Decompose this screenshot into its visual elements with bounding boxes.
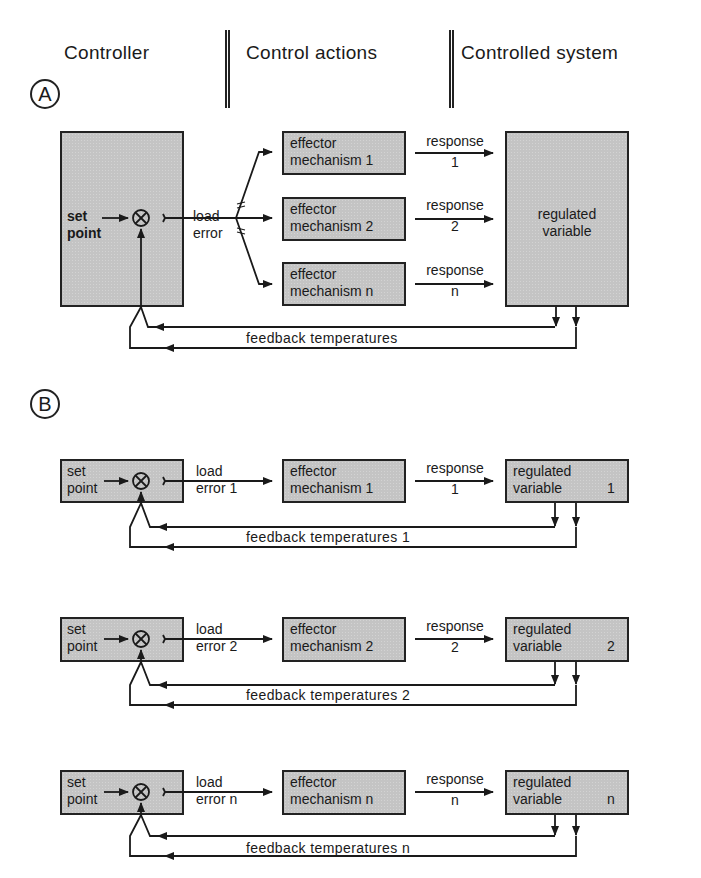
- comparator-icon: [133, 784, 149, 800]
- comparator-icon: [133, 631, 149, 647]
- comparator-icon: [133, 473, 149, 489]
- connector-lines: [0, 0, 701, 878]
- comparator-icon: [133, 210, 149, 226]
